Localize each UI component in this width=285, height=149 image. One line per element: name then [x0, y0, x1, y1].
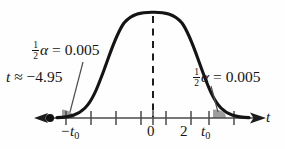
one-half-fraction-right: 1 2: [193, 67, 200, 88]
t-variable-symbol: t: [6, 68, 10, 85]
approximately-equal-sign: ≈: [14, 68, 23, 85]
observed-t-value-label: t ≈ −4.95: [6, 69, 62, 85]
left-tail-probability-label: 1 2 α = 0.005: [32, 40, 100, 61]
tick-label-neg-t0-subscript: 0: [74, 130, 79, 141]
alpha-symbol-left: α: [40, 41, 48, 58]
tick-label-zero: 0: [147, 124, 155, 139]
one-half-fraction-left: 1 2: [32, 40, 39, 61]
t-distribution-figure: 1 2 α = 0.005 1 2 α = 0.005 t ≈ −4.95 −t…: [0, 0, 285, 149]
tick-label-two: 2: [180, 124, 188, 139]
alpha-symbol-right: α: [201, 68, 209, 85]
tick-label-neg-t0-text: −t: [60, 123, 74, 139]
tick-label-t0: t0: [201, 124, 210, 141]
tick-label-zero-text: 0: [147, 123, 155, 139]
equals-sign-left: =: [52, 41, 61, 58]
right-alpha-leader-line: [211, 86, 218, 112]
left-tail-probability-value: 0.005: [65, 41, 100, 58]
tick-label-t0-subscript: 0: [205, 130, 210, 141]
tick-label-negative-t0: −t0: [60, 124, 79, 141]
left-alpha-leader-line: [70, 62, 83, 112]
observed-t-marker: [46, 114, 54, 122]
tick-label-two-text: 2: [180, 123, 188, 139]
equals-sign-right: =: [213, 68, 222, 85]
right-tail-probability-label: 1 2 α = 0.005: [193, 67, 261, 88]
right-tail-probability-value: 0.005: [226, 68, 261, 85]
density-curve: [57, 12, 249, 117]
axis-label-t: t: [266, 110, 270, 125]
observed-t-value: −4.95: [27, 68, 63, 85]
